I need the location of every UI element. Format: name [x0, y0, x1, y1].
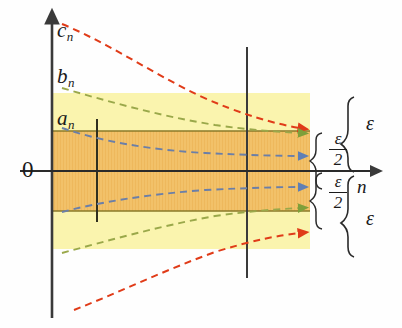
label-c-n-sub: n [67, 29, 74, 44]
half-epsilon-lower-denominator: 2 [329, 194, 347, 212]
label-epsilon-lower: ε [366, 208, 374, 228]
brace-half-epsilon-lower [310, 173, 322, 229]
label-a-n-sub: n [68, 117, 75, 132]
label-b-n: bn [57, 66, 75, 89]
half-epsilon-upper-numerator: ε [329, 130, 347, 148]
label-b-n-sub: n [68, 75, 75, 90]
label-half-epsilon-upper: ε 2 [329, 130, 347, 169]
label-b-n-base: b [57, 64, 68, 88]
label-epsilon-upper: ε [366, 113, 374, 133]
label-a-n: an [57, 108, 75, 131]
label-half-epsilon-lower: ε 2 [329, 173, 347, 212]
half-epsilon-lower-numerator: ε [329, 173, 347, 191]
label-origin: 0 [22, 158, 34, 181]
label-c-n: cn [57, 20, 73, 43]
label-n-axis: n [357, 177, 367, 196]
half-epsilon-upper-denominator: 2 [329, 151, 347, 169]
label-c-n-base: c [57, 18, 66, 42]
squeeze-theorem-figure: cn bn an 0 n ε 2 ε 2 ε ε [0, 0, 402, 328]
label-a-n-base: a [57, 106, 68, 130]
